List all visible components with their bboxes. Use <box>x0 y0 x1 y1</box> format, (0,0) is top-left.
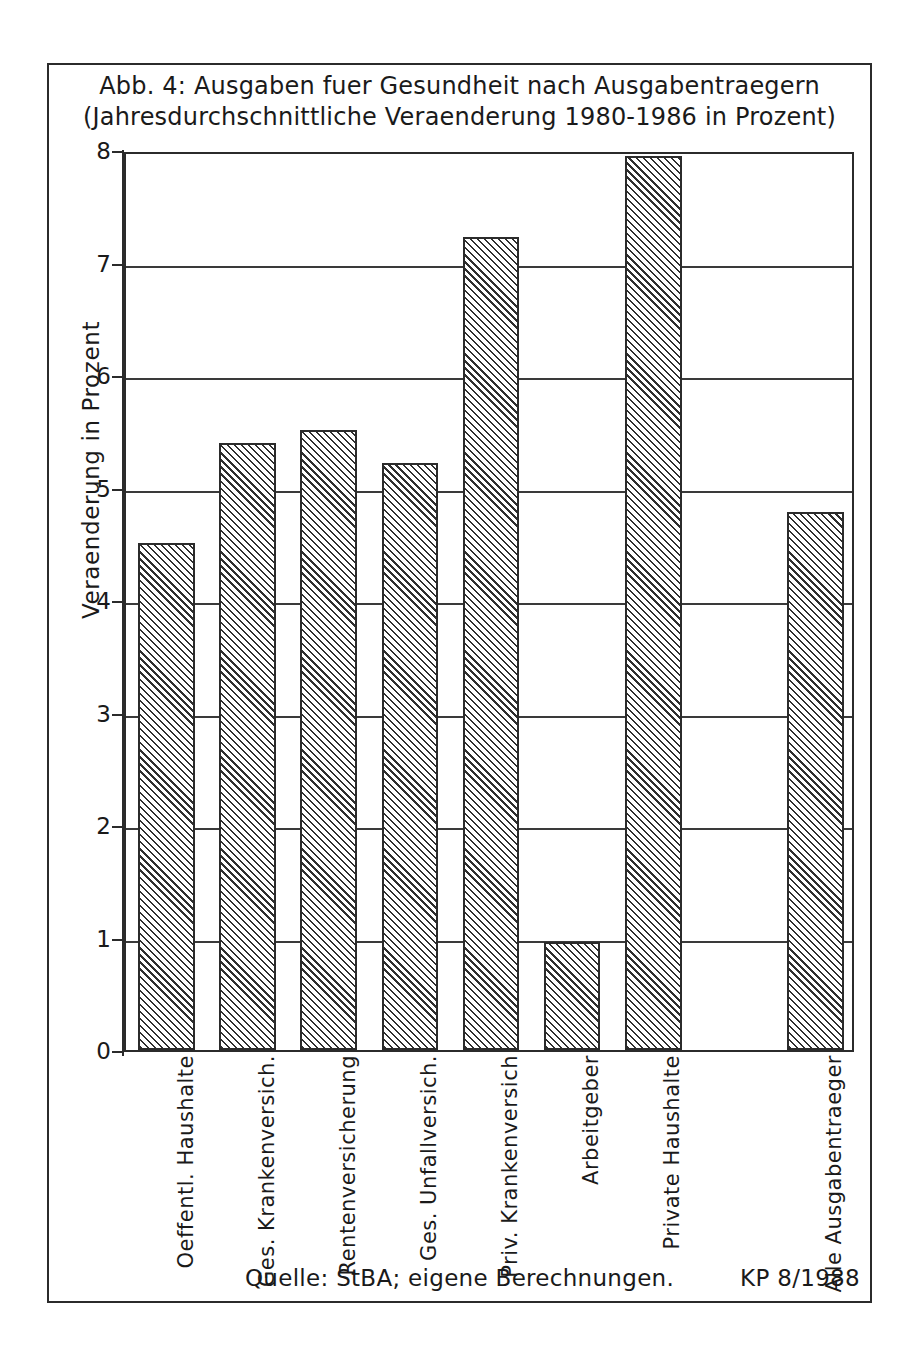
bar <box>787 512 844 1050</box>
y-tick-mark-7 <box>112 264 124 266</box>
y-tick-label-3: 3 <box>65 703 111 726</box>
x-axis-category-label: Priv. Krankenversich <box>498 1055 522 1278</box>
bar <box>544 942 601 1050</box>
x-axis-category-label: Ges. Krankenversich. <box>255 1055 279 1287</box>
y-tick-mark-6 <box>112 376 124 378</box>
x-axis-category-label: Oeffentl. Haushalte <box>174 1055 198 1268</box>
x-axis-label-text: Alle Ausgabentraeger <box>822 1055 846 1293</box>
credit-note: KP 8/1988 <box>740 1265 860 1291</box>
y-tick-mark-2 <box>112 826 124 828</box>
y-tick-label-1: 1 <box>65 928 111 951</box>
x-axis-label-text: Arbeitgeber <box>579 1055 603 1185</box>
y-tick-mark-0 <box>112 1051 124 1053</box>
y-axis-title: Veraenderung in Prozent <box>78 260 104 680</box>
x-axis-category-label: Arbeitgeber <box>579 1055 603 1185</box>
y-tick-mark-3 <box>112 714 124 716</box>
y-tick-label-0: 0 <box>65 1040 111 1063</box>
x-axis-label-text: Rentenversicherung <box>336 1055 360 1275</box>
bar <box>219 443 276 1051</box>
bar <box>382 463 439 1050</box>
x-axis-category-labels: Oeffentl. HaushalteGes. Krankenversich.R… <box>124 1055 854 1295</box>
x-axis-label-text: Private Haushalte <box>660 1055 684 1249</box>
chart-title: Abb. 4: Ausgaben fuer Gesundheit nach Au… <box>49 71 870 133</box>
y-tick-mark-8 <box>112 151 124 153</box>
x-axis-label-text: Priv. Krankenversich <box>498 1055 522 1278</box>
x-axis-category-label: Private Haushalte <box>660 1055 684 1249</box>
x-axis-label-text: Oeffentl. Haushalte <box>174 1055 198 1268</box>
y-axis-tick-labels: 012345678 <box>55 65 111 1301</box>
figure-frame: Abb. 4: Ausgaben fuer Gesundheit nach Au… <box>47 63 872 1303</box>
chart-title-line-2: (Jahresdurchschnittliche Veraenderung 19… <box>49 102 870 133</box>
bar <box>463 237 520 1050</box>
chart-title-line-1: Abb. 4: Ausgaben fuer Gesundheit nach Au… <box>49 71 870 102</box>
bar <box>138 543 195 1050</box>
x-axis-category-label: Alle Ausgabentraeger <box>822 1055 846 1293</box>
y-tick-label-8: 8 <box>65 140 111 163</box>
bar <box>300 430 357 1050</box>
x-axis-category-label: Rentenversicherung <box>336 1055 360 1275</box>
y-tick-label-2: 2 <box>65 815 111 838</box>
plot-area <box>124 152 854 1052</box>
y-tick-mark-4 <box>112 601 124 603</box>
x-axis-label-text: Ges. Unfallversich. <box>417 1055 441 1261</box>
x-axis-category-label: Ges. Unfallversich. <box>417 1055 441 1261</box>
bar <box>625 156 682 1050</box>
x-axis-label-text: Ges. Krankenversich. <box>255 1055 279 1287</box>
y-tick-mark-1 <box>112 939 124 941</box>
y-tick-mark-5 <box>112 489 124 491</box>
